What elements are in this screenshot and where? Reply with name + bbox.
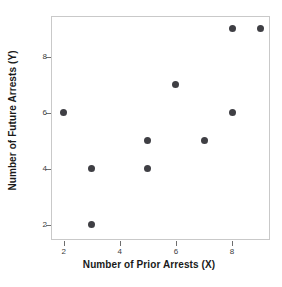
y-tick-label: 8 (23, 53, 47, 61)
x-tick-label: 2 (54, 248, 74, 256)
data-point (257, 25, 264, 32)
scatter-plot-figure: Number of Future Arrests (Y) 2468 2468 N… (0, 0, 282, 287)
y-axis-title-text: Number of Future Arrests (Y) (7, 50, 18, 190)
x-tick-label: 4 (110, 248, 130, 256)
x-tick-label: 6 (166, 248, 186, 256)
x-tick-mark (176, 241, 177, 246)
x-axis-title: Number of Prior Arrests (X) (24, 259, 274, 270)
data-point (201, 137, 208, 144)
x-tick-label: 8 (222, 248, 242, 256)
y-tick-label: 6 (23, 109, 47, 117)
data-point (229, 109, 236, 116)
y-tick-label: 2 (23, 221, 47, 229)
x-tick-mark (232, 241, 233, 246)
plot-area-frame (51, 16, 270, 240)
x-tick-mark (120, 241, 121, 246)
data-point (229, 25, 236, 32)
x-tick-mark (64, 241, 65, 246)
y-axis-title: Number of Future Arrests (Y) (0, 0, 24, 240)
y-tick-label: 4 (23, 165, 47, 173)
